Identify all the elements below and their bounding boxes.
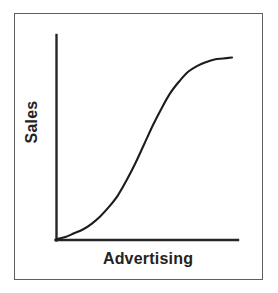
y-axis-title: Sales [23,82,41,162]
sales-response-curve [57,58,233,239]
figure-root: Sales Advertising [0,0,278,293]
x-axis-title: Advertising [56,250,240,268]
